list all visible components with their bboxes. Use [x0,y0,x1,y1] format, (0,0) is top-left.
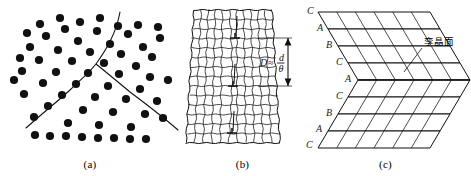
atom-dot [68,57,76,65]
lattice-plane-horizontal [193,28,273,29]
grain-boundary-curve [96,64,178,130]
lattice-grid [185,9,280,143]
panel-a: (a) [0,0,180,176]
atom-dot [61,25,69,33]
atom-dot [76,18,84,26]
atom-dot [56,14,64,22]
atom-dot [96,14,104,22]
atom-dot [154,23,162,31]
atom-dot [74,37,82,45]
atom-dot [142,135,150,143]
lattice-plane-horizontal [192,47,275,48]
atom-dot [156,34,164,42]
panel-b-graphic: D≈dθ [180,0,305,150]
stacking-label: B [326,107,332,118]
panel-b-caption: (b) [180,158,305,170]
stacking-label: C [306,139,313,150]
atom-dot [132,62,140,70]
atom-dot [148,53,156,61]
atom-dot [139,43,147,51]
dimension-arrow-down [285,79,292,87]
stacking-label: A [316,22,324,33]
figure-root: (a) D≈dθ (b) CABCACBAC孪晶面 (c) [0,0,471,176]
atom-dot [36,20,44,28]
lattice-plane-horizontal [185,142,279,143]
atom-dot [141,110,149,118]
atom-dot [78,133,86,141]
atom-dot [52,68,60,76]
atom-dot [23,29,31,37]
fraction-numerator-d: d [279,52,285,63]
atom-dot [64,119,72,127]
atom-dot [122,95,130,103]
dimension-arrow-up [285,38,292,46]
lattice-plane-horizontal [194,19,273,20]
atom-dot [104,82,112,90]
atom-dot [94,134,102,142]
twin-plane-annotation: 孪晶面 [424,36,454,47]
atom-dot [124,30,132,38]
atom-dot [110,134,118,142]
atom-dot [16,54,24,62]
atom-dot [31,131,39,139]
atom-dot [35,56,43,64]
lattice-plane-horizontal [187,114,278,115]
grain-boundary-curve [26,12,120,128]
stacking-label: C [307,5,314,16]
atom-dot [86,48,94,56]
atom-dot [95,121,103,129]
atom-dot [62,132,70,140]
panel-b: D≈dθ (b) [180,0,305,176]
atom-dot [26,43,34,51]
edge-dislocation-symbol [227,128,237,133]
atom-dot [20,90,28,98]
lattice-plane-horizontal [190,95,278,96]
atom-dot [146,73,154,81]
atom-dot [54,46,62,54]
atom-dot [10,76,18,84]
atom-dot [100,59,108,67]
panel-a-caption: (a) [0,158,180,170]
panel-a-graphic [0,0,180,150]
atom-dot [79,106,87,114]
lattice-plane-horizontal [194,9,272,10]
stacking-label: C [336,90,343,101]
atom-dot [136,85,144,93]
fraction-denominator-theta: θ [279,63,284,74]
atom-dot [18,67,26,75]
atom-dot [46,132,54,140]
atom-dot [93,27,101,35]
atom-dot [153,97,161,105]
atom-dot [134,21,142,29]
lattice-plane-horizontal [188,104,277,105]
atom-dot [115,70,123,78]
approx-equals-symbol: ≈ [268,57,274,68]
twin-crystal-block [318,12,470,148]
atom-dot [39,79,47,87]
atom-dot [30,113,38,121]
atom-dot [127,123,135,131]
atom-dot [109,108,117,116]
stacking-label: B [326,39,332,50]
stacking-label: A [315,123,323,134]
atom-dot [164,76,172,84]
panel-c: CABCACBAC孪晶面 (c) [300,0,471,176]
panel-c-caption: (c) [300,158,471,170]
stacking-label: A [344,73,352,84]
atom-dot [117,50,125,58]
atom-dot [42,32,50,40]
grain-dot-field [10,14,172,143]
stacking-label: C [336,56,343,67]
atom-dot [91,93,99,101]
panel-c-graphic: CABCACBAC孪晶面 [300,0,471,150]
atom-dot [126,135,134,143]
spacing-symbol-D: D [259,57,268,68]
